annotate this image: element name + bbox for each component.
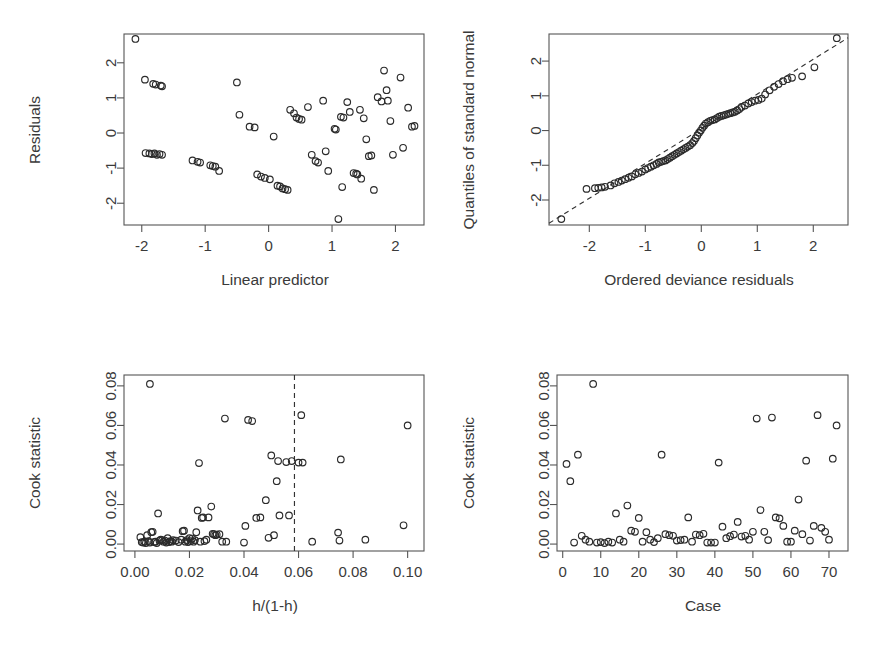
data-point [142, 76, 149, 83]
data-point [338, 456, 345, 463]
data-point [558, 216, 565, 223]
x-tick-label: 0.08 [338, 563, 367, 580]
data-point [719, 523, 726, 530]
data-point [242, 523, 249, 530]
x-tick-label: 0.02 [175, 563, 204, 580]
x-tick-label: 0 [697, 237, 705, 254]
data-point [208, 503, 215, 510]
x-tick-label: 30 [668, 563, 685, 580]
data-point [611, 180, 618, 187]
y-tick-label: 0 [527, 126, 544, 134]
x-tick-label: 0.00 [120, 563, 149, 580]
data-point [834, 35, 841, 42]
y-tick-label: 0.06 [535, 411, 552, 440]
data-point [789, 74, 796, 81]
data-point [360, 115, 367, 122]
x-tick-label: 0.04 [229, 563, 258, 580]
data-point [833, 422, 840, 429]
data-point [390, 151, 397, 158]
panel-2-plot-area: -2-1012-2-1012Ordered deviance residuals… [460, 30, 848, 288]
data-point [655, 535, 662, 542]
data-point [263, 497, 270, 504]
data-point [357, 107, 364, 114]
panel-4-plot-area: 0102030405060700.000.020.040.060.08CaseC… [460, 371, 848, 614]
x-axis-title: Ordered deviance residuals [604, 271, 794, 288]
data-point [335, 529, 342, 536]
data-point [750, 529, 757, 536]
data-point [397, 74, 404, 81]
x-tick-label: 0.10 [393, 563, 422, 580]
x-axis-title: Case [685, 597, 721, 614]
x-tick-label: 2 [391, 237, 399, 254]
data-point [658, 451, 665, 458]
y-tick-label: 0 [102, 129, 119, 137]
data-point [216, 168, 223, 175]
data-point [132, 36, 139, 43]
x-tick-label: 1 [753, 237, 761, 254]
data-point [223, 538, 230, 545]
data-point [309, 538, 316, 545]
data-points [132, 36, 418, 223]
data-point [700, 531, 707, 538]
data-point [563, 461, 570, 468]
data-point [601, 540, 608, 547]
data-point [814, 412, 821, 419]
y-tick-label: 0.06 [102, 411, 119, 440]
data-point [583, 186, 590, 193]
data-point [791, 527, 798, 534]
data-point [346, 109, 353, 116]
data-point [387, 118, 394, 125]
data-point [193, 529, 200, 536]
data-point [639, 538, 646, 545]
data-point [765, 537, 772, 544]
data-point [799, 73, 806, 80]
data-point [320, 97, 327, 104]
data-point [826, 536, 833, 543]
data-point [757, 507, 764, 514]
data-point [761, 529, 768, 536]
data-point [769, 414, 776, 421]
data-point [344, 99, 351, 106]
panel-1-svg: -2-1012-2-1012Linear predictorResiduals [0, 0, 446, 322]
y-tick-label: 0.02 [535, 490, 552, 519]
qq-reference-line [549, 38, 848, 223]
y-axis-title: Cook statistic [26, 417, 43, 509]
data-point [613, 510, 620, 517]
x-tick-label: -1 [199, 237, 212, 254]
data-point [271, 532, 278, 539]
data-point [358, 175, 365, 182]
x-tick-label: 1 [328, 237, 336, 254]
data-point [196, 460, 203, 467]
data-point [643, 529, 650, 536]
data-point [268, 452, 275, 459]
data-point [325, 168, 332, 175]
data-point [571, 539, 578, 546]
x-tick-label: -2 [135, 237, 148, 254]
y-tick-label: 2 [102, 59, 119, 67]
x-tick-label: 20 [630, 563, 647, 580]
data-point [685, 514, 692, 521]
data-point [811, 64, 818, 71]
data-point [194, 507, 201, 514]
y-tick-label: 0.00 [102, 529, 119, 558]
y-tick-label: 1 [102, 94, 119, 102]
x-tick-label: 50 [745, 563, 762, 580]
data-point [336, 537, 343, 544]
data-point [795, 496, 802, 503]
x-tick-label: -1 [639, 237, 652, 254]
data-point [203, 536, 210, 543]
data-point [567, 478, 574, 485]
data-point [624, 502, 631, 509]
panel-cook-vs-leverage: 0.000.020.040.060.080.100.000.020.040.06… [0, 322, 446, 645]
data-point [273, 478, 280, 485]
data-point [715, 459, 722, 466]
data-point [810, 523, 817, 530]
data-point [371, 187, 378, 194]
panel-4-svg: 0102030405060700.000.020.040.060.08CaseC… [447, 322, 893, 645]
x-tick-label: 60 [783, 563, 800, 580]
data-point [155, 510, 162, 517]
data-points [558, 35, 840, 223]
data-point [400, 144, 407, 151]
data-point [275, 458, 282, 465]
data-point [400, 522, 407, 529]
